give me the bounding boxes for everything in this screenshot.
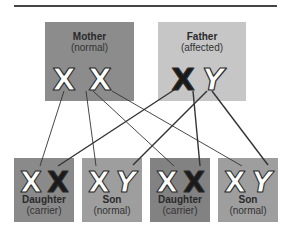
daughter2-chromosome-x-affected: X bbox=[183, 166, 205, 199]
father-chromosome-y: Y bbox=[202, 62, 227, 97]
line-mother-x2-son2 bbox=[112, 91, 242, 166]
daughter1-chromosome-x: X bbox=[20, 166, 42, 199]
mother-chromosome-x1: X bbox=[52, 62, 75, 97]
son1-chromosome-y: Y bbox=[116, 166, 139, 199]
son1-chromosome-x: X bbox=[88, 166, 110, 199]
son2-chromosome-x: X bbox=[224, 166, 246, 199]
father-chromosome-x-affected: X bbox=[171, 62, 194, 97]
line-father-x-daughter1 bbox=[58, 88, 177, 166]
daughter2-chromosome-x: X bbox=[156, 166, 178, 199]
mother-chromosome-x2: X bbox=[88, 62, 111, 97]
daughter1-chromosome-x-affected: X bbox=[47, 166, 69, 199]
inheritance-diagram: X X X Y X X X Y X X X Y bbox=[0, 0, 294, 237]
inheritance-lines bbox=[40, 88, 268, 166]
line-mother-x1-son1 bbox=[86, 91, 96, 166]
line-mother-x2-daughter2 bbox=[93, 91, 174, 166]
line-mother-x1-daughter1 bbox=[40, 91, 64, 166]
son2-chromosome-y: Y bbox=[252, 166, 275, 199]
